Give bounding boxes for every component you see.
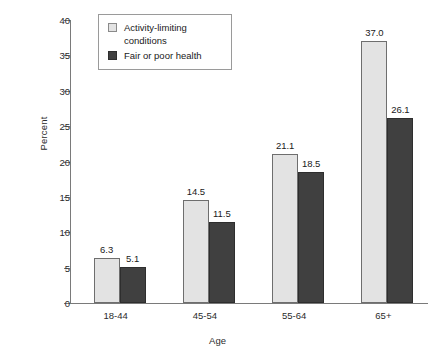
bar-value-label: 18.5 <box>291 158 331 169</box>
bar-group: 21.118.5 <box>272 20 324 303</box>
bar-value-label: 26.1 <box>380 104 420 115</box>
light-gray-swatch-icon <box>108 23 117 32</box>
y-axis-tick-label: 0 <box>44 298 70 309</box>
bar <box>298 172 324 303</box>
bar-chart: Percent 0510152025303540 6.35.114.511.52… <box>0 0 435 358</box>
x-axis-tick-label: 65+ <box>343 310 423 321</box>
y-axis-tick-label: 10 <box>44 227 70 238</box>
y-axis-tick-label: 15 <box>44 191 70 202</box>
bar-value-label: 5.1 <box>113 253 153 264</box>
bar-group: 37.026.1 <box>361 20 413 303</box>
legend-item-label: Activity-limiting conditions <box>124 21 228 47</box>
bar <box>272 154 298 303</box>
chart-legend: Activity-limiting conditions Fair or poo… <box>98 14 232 70</box>
dark-gray-swatch-icon <box>108 51 117 60</box>
x-axis-tick-label: 45-54 <box>165 310 245 321</box>
y-axis-tick-label: 25 <box>44 121 70 132</box>
bar-value-label: 37.0 <box>354 27 394 38</box>
x-axis-title: Age <box>0 335 435 346</box>
bar <box>94 258 120 303</box>
bar-value-label: 11.5 <box>202 208 242 219</box>
y-axis-tick-label: 20 <box>44 156 70 167</box>
y-axis-tick-label: 30 <box>44 85 70 96</box>
legend-item-label: Fair or poor health <box>124 49 228 62</box>
bar <box>120 267 146 303</box>
bar-value-label: 21.1 <box>265 140 305 151</box>
x-axis-tick-label: 55-64 <box>254 310 334 321</box>
legend-item-activity-limiting-conditions: Activity-limiting conditions <box>108 21 228 47</box>
bar <box>387 118 413 303</box>
bar-value-label: 14.5 <box>176 186 216 197</box>
bar <box>361 41 387 303</box>
y-axis-tick-label: 35 <box>44 50 70 61</box>
x-axis-line <box>70 303 428 304</box>
y-axis-tick-label: 5 <box>44 262 70 273</box>
legend-item-fair-or-poor-health: Fair or poor health <box>108 49 228 62</box>
y-axis-tick-label: 40 <box>44 15 70 26</box>
bar <box>209 222 235 303</box>
x-axis-tick-label: 18-44 <box>76 310 156 321</box>
